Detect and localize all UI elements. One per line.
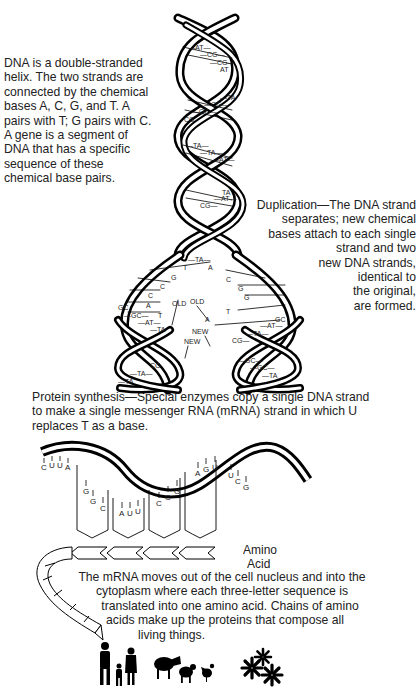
svg-text:—AT—: —AT— [138, 319, 160, 326]
svg-text:U: U [57, 461, 63, 470]
svg-text:U: U [228, 471, 234, 480]
svg-text:—CG—: —CG— [200, 51, 225, 58]
svg-text:—AT—: —AT— [212, 156, 234, 163]
svg-text:—CG—: —CG— [210, 59, 235, 66]
svg-text:CG: CG [184, 116, 195, 123]
svg-text:T: T [226, 308, 231, 315]
svg-text:—TA: —TA [150, 326, 166, 333]
svg-text:G: G [203, 465, 209, 474]
svg-text:A: A [119, 509, 125, 518]
sheep-icon [179, 664, 196, 683]
svg-text:A: A [146, 302, 151, 309]
svg-text:U: U [127, 509, 133, 518]
svg-text:G: G [83, 487, 89, 496]
svg-text:CG—: CG— [200, 202, 218, 209]
svg-text:C: C [100, 504, 106, 513]
svg-text:U: U [212, 463, 218, 472]
svg-text:—AT—: —AT— [214, 195, 236, 202]
svg-text:—TA—: —TA— [188, 256, 210, 263]
svg-text:C: C [235, 477, 241, 486]
svg-text:—TA: —TA [220, 94, 236, 101]
svg-text:C: C [226, 276, 231, 283]
svg-text:GC: GC [118, 304, 129, 311]
svg-text:AT: AT [220, 66, 229, 73]
svg-text:—GC—: —GC— [250, 364, 275, 371]
svg-text:—AT—: —AT— [188, 44, 210, 51]
strand-old-new-labels: OLD OLD NEW NEW [172, 298, 209, 345]
svg-text:C: C [165, 493, 171, 502]
svg-text:A: A [208, 264, 213, 271]
svg-text:NEW: NEW [184, 338, 201, 345]
svg-text:C: C [41, 463, 47, 472]
svg-text:G: G [90, 497, 96, 506]
person-adult-icon [100, 642, 110, 685]
svg-text:U: U [135, 507, 141, 516]
svg-text:—GC—: —GC— [238, 357, 263, 364]
cow-icon [154, 656, 181, 679]
svg-text:OLD: OLD [190, 298, 204, 305]
svg-text:—CG—: —CG— [204, 101, 229, 108]
svg-text:C: C [148, 292, 153, 299]
svg-text:A: A [65, 463, 71, 472]
svg-text:OLD: OLD [172, 300, 186, 307]
svg-text:—TA—: —TA— [130, 370, 152, 377]
svg-text:—TA: —TA [118, 378, 134, 385]
person-woman-icon [125, 648, 137, 686]
svg-text:T: T [183, 264, 188, 271]
svg-text:—AT—: —AT— [260, 322, 282, 329]
svg-text:C: C [156, 499, 162, 508]
svg-text:G: G [171, 274, 176, 281]
svg-text:A: A [195, 469, 201, 478]
svg-text:—TA—: —TA— [186, 142, 208, 149]
svg-text:G: G [174, 487, 180, 496]
svg-text:G: G [244, 294, 249, 301]
svg-text:CG: CG [150, 362, 161, 369]
svg-text:T: T [158, 312, 163, 319]
svg-text:G: G [243, 483, 249, 492]
svg-text:NEW: NEW [192, 328, 209, 335]
organisms [100, 642, 282, 686]
svg-text:CG—: CG— [232, 337, 250, 344]
dna-helix-diagram: —AT— —CG— —CG— AT —TA —CG— —GC— CG —TA— … [0, 0, 419, 695]
svg-text:—GC—: —GC— [192, 108, 217, 115]
svg-text:G: G [238, 285, 243, 292]
svg-text:—TA—: —TA— [200, 149, 222, 156]
svg-text:U: U [49, 461, 55, 470]
svg-text:—TA—: —TA— [246, 330, 268, 337]
svg-text:—GC—: —GC— [124, 312, 149, 319]
base-pair-rungs [128, 47, 285, 325]
chicken-icon [201, 664, 214, 682]
svg-text:—TA: —TA [262, 372, 278, 379]
svg-text:A: A [205, 316, 210, 323]
svg-text:C: C [160, 283, 165, 290]
person-child-icon [116, 664, 122, 687]
amino-acid-chain [37, 547, 215, 640]
flower-icon [242, 649, 282, 685]
